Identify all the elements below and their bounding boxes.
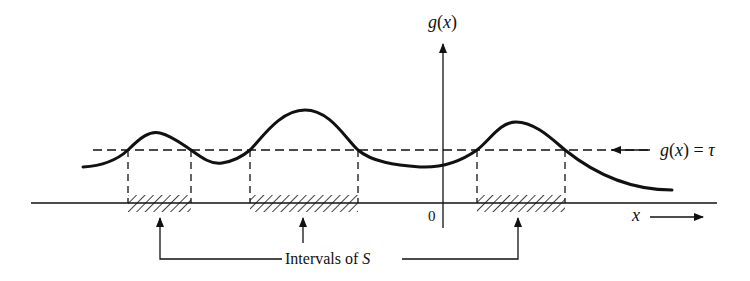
interval-2-hatch — [250, 195, 358, 212]
diagram-canvas: g(x) g(x) = τ 0 x Intervals of S — [0, 0, 750, 281]
threshold-label: g(x) = τ — [660, 140, 715, 161]
callout-label: Intervals of S — [285, 250, 370, 267]
x-axis-label: x — [631, 205, 640, 225]
callout-text: Intervals of — [285, 250, 362, 267]
interval-1-hatch — [128, 195, 191, 212]
callout-set: S — [362, 250, 370, 267]
y-axis-label: g(x) — [428, 12, 457, 33]
origin-label: 0 — [428, 208, 436, 224]
interval-3-hatch — [477, 195, 565, 212]
